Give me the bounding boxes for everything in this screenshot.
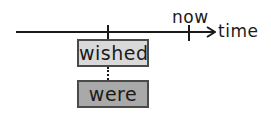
- wished-box-label: wished: [79, 42, 149, 64]
- time-axis-label: time: [218, 23, 258, 40]
- timeline-axis: [16, 31, 214, 33]
- now-label: now: [172, 9, 209, 26]
- past-tick-mark: [107, 25, 109, 39]
- were-box: were: [77, 80, 149, 108]
- were-box-label: were: [89, 83, 137, 105]
- wished-box: wished: [77, 39, 149, 67]
- now-tick-mark: [188, 25, 190, 41]
- tense-timeline-diagram: now time wished were: [0, 0, 271, 115]
- dotted-connector: [107, 67, 109, 80]
- arrow-right-icon: [206, 26, 216, 38]
